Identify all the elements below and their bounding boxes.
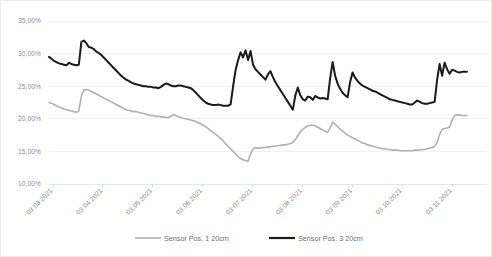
x-tick-label: 03.04.2021 — [75, 187, 104, 216]
y-tick-label: 10,00% — [18, 180, 41, 187]
legend-label-2: Sensor Pos. 3 20cm — [298, 234, 363, 243]
series-line-2 — [49, 41, 467, 110]
line-chart: 10,00%15,00%20,00%25,00%30,00%35,00% 03.… — [1, 1, 492, 257]
y-tick-label: 15,00% — [18, 148, 41, 155]
x-tick-label: 03.03.2021 — [25, 187, 54, 216]
legend: Sensor Pos. 1 20cmSensor Pos. 3 20cm — [135, 234, 363, 243]
y-tick-label: 20,00% — [18, 115, 41, 122]
x-tick-label: 03.10.2021 — [374, 187, 403, 216]
y-tick-label: 25,00% — [18, 83, 41, 90]
x-tick-label: 03.05.2021 — [125, 187, 154, 216]
x-tick-label: 03.09.2021 — [324, 187, 353, 216]
x-tick-label: 03.08.2021 — [274, 187, 303, 216]
legend-label-1: Sensor Pos. 1 20cm — [164, 234, 229, 243]
series-line-1 — [49, 89, 467, 161]
y-tick-label: 35,00% — [18, 17, 41, 24]
data-series — [49, 41, 467, 162]
x-tick-label: 03.07.2021 — [224, 187, 253, 216]
x-tick-label: 03.11.2021 — [424, 187, 453, 216]
y-axis-labels: 10,00%15,00%20,00%25,00%30,00%35,00% — [18, 17, 41, 187]
chart-card: 10,00%15,00%20,00%25,00%30,00%35,00% 03.… — [0, 0, 492, 257]
x-tick-label: 03.06.2021 — [174, 187, 203, 216]
x-axis-labels: 03.03.202103.04.202103.05.202103.06.2021… — [25, 187, 453, 216]
y-tick-label: 30,00% — [18, 50, 41, 57]
